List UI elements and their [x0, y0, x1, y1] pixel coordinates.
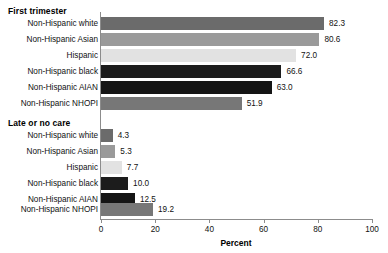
bar-row: Hispanic72.0 [0, 48, 388, 64]
bar-value-label: 82.3 [329, 18, 345, 29]
bar-row: Non-Hispanic black66.6 [0, 64, 388, 80]
bar-row: Non-Hispanic Asian5.3 [0, 144, 388, 160]
bar-category-label: Non-Hispanic NHOPI [0, 204, 98, 215]
bar-category-label: Non-Hispanic black [0, 178, 98, 189]
bar [101, 97, 242, 110]
bar-value-label: 7.7 [127, 162, 138, 173]
y-axis-line [100, 12, 101, 219]
x-axis-tick-label: 100 [352, 225, 388, 235]
group-heading-late-or-no-care: Late or no care [8, 118, 70, 128]
bar-value-label: 72.0 [301, 50, 317, 61]
bar-value-label: 19.2 [158, 204, 174, 215]
x-axis-tick [372, 219, 373, 223]
x-axis-tick [318, 219, 319, 223]
bar-chart: First trimester Late or no care Non-Hisp… [0, 0, 388, 253]
x-axis-title: Percent [100, 238, 372, 248]
bar [101, 129, 113, 142]
x-axis-tick [101, 219, 102, 223]
bar [101, 161, 122, 174]
bar-row: Non-Hispanic NHOPI19.2 [0, 202, 388, 218]
bar-row: Non-Hispanic Asian80.6 [0, 32, 388, 48]
bar-value-label: 5.3 [120, 146, 131, 157]
bar-row: Non-Hispanic black10.0 [0, 176, 388, 192]
x-axis-tick [264, 219, 265, 223]
bar [101, 17, 324, 30]
x-axis-tick [209, 219, 210, 223]
bar-value-label: 51.9 [247, 98, 263, 109]
bar-category-label: Non-Hispanic NHOPI [0, 98, 98, 109]
bar-value-label: 10.0 [133, 178, 149, 189]
bar [101, 33, 319, 46]
bar-category-label: Non-Hispanic Asian [0, 34, 98, 45]
x-axis-tick-label: 0 [81, 225, 121, 235]
x-axis-line [100, 219, 372, 220]
bar [101, 81, 272, 94]
bar-row: Non-Hispanic white82.3 [0, 16, 388, 32]
bar-value-label: 63.0 [277, 82, 293, 93]
group-heading-first-trimester: First trimester [8, 6, 67, 16]
bar-row: Non-Hispanic NHOPI51.9 [0, 96, 388, 112]
bar-category-label: Non-Hispanic Asian [0, 146, 98, 157]
x-axis-tick-label: 80 [298, 225, 338, 235]
bar-row: Hispanic7.7 [0, 160, 388, 176]
bar-category-label: Non-Hispanic white [0, 130, 98, 141]
bar [101, 177, 128, 190]
bar [101, 203, 153, 216]
bar-row: Non-Hispanic white4.3 [0, 128, 388, 144]
bar-category-label: Non-Hispanic white [0, 18, 98, 29]
bar-category-label: Non-Hispanic black [0, 66, 98, 77]
x-axis-tick-label: 20 [135, 225, 175, 235]
bar-category-label: Hispanic [0, 162, 98, 173]
bar [101, 145, 115, 158]
x-axis-tick-label: 60 [244, 225, 284, 235]
bar-category-label: Hispanic [0, 50, 98, 61]
bar-row: Non-Hispanic AIAN63.0 [0, 80, 388, 96]
bar [101, 65, 281, 78]
bar-value-label: 80.6 [324, 34, 340, 45]
bar-value-label: 66.6 [286, 66, 302, 77]
x-axis-tick [155, 219, 156, 223]
bar-category-label: Non-Hispanic AIAN [0, 82, 98, 93]
bar [101, 49, 296, 62]
x-axis-tick-label: 40 [189, 225, 229, 235]
bar-value-label: 4.3 [118, 130, 129, 141]
